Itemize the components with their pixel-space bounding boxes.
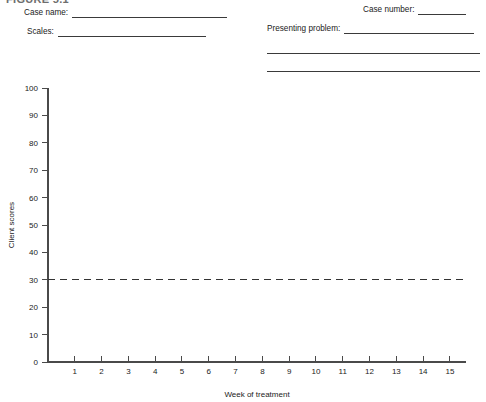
chart-canvas: 0102030405060708090100 12345678910111213…	[0, 0, 486, 402]
y-tick-label-90: 90	[29, 111, 38, 120]
x-tick-label-7: 7	[233, 367, 238, 376]
y-tick-label-20: 20	[29, 303, 38, 312]
y-tick-label-50: 50	[29, 221, 38, 230]
x-tick-label-6: 6	[207, 367, 212, 376]
y-tick-label-30: 30	[29, 276, 38, 285]
y-axis: 0102030405060708090100	[25, 84, 48, 367]
y-axis-title: Client scores	[7, 202, 16, 248]
x-tick-label-2: 2	[99, 367, 104, 376]
x-tick-label-12: 12	[365, 367, 374, 376]
x-tick-label-10: 10	[311, 367, 320, 376]
x-tick-label-14: 14	[419, 367, 428, 376]
x-tick-label-1: 1	[73, 367, 78, 376]
x-tick-label-3: 3	[126, 367, 131, 376]
x-axis-title: Week of treatment	[224, 390, 290, 399]
client-scores-chart: 0102030405060708090100 12345678910111213…	[0, 0, 486, 402]
x-tick-label-8: 8	[260, 367, 265, 376]
x-tick-label-4: 4	[153, 367, 158, 376]
x-tick-label-9: 9	[287, 367, 292, 376]
y-tick-label-10: 10	[29, 331, 38, 340]
y-tick-label-100: 100	[25, 84, 39, 93]
x-tick-label-15: 15	[445, 367, 454, 376]
y-tick-label-70: 70	[29, 166, 38, 175]
x-tick-label-11: 11	[339, 367, 348, 376]
y-tick-label-40: 40	[29, 248, 38, 257]
x-axis: 123456789101112131415	[48, 356, 466, 376]
x-tick-label-13: 13	[392, 367, 401, 376]
y-tick-label-80: 80	[29, 139, 38, 148]
y-tick-label-60: 60	[29, 194, 38, 203]
x-tick-label-5: 5	[180, 367, 185, 376]
y-tick-label-0: 0	[34, 358, 39, 367]
